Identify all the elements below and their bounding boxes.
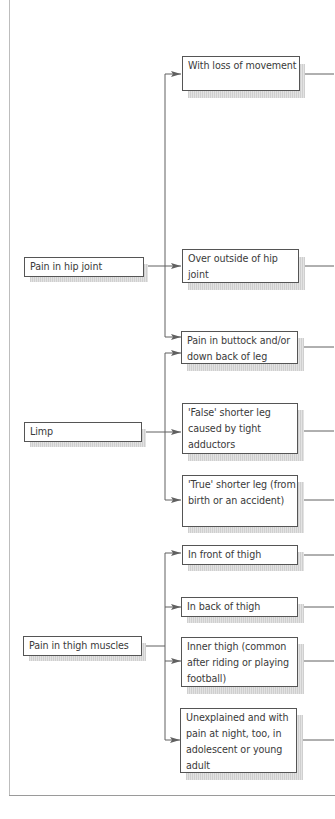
target-inner-thigh: Inner thigh (common after riding or play…: [181, 637, 298, 687]
target-loss-of-movement: With loss of movement: [182, 56, 300, 91]
source-thigh-muscles: Pain in thigh muscles: [23, 636, 142, 656]
target-buttock-back-leg: Pain in buttock and/or down back of leg: [181, 331, 298, 364]
source-limp: Limp: [24, 422, 142, 442]
target-outside-hip: Over outside of hip joint: [182, 249, 299, 283]
target-back-thigh: In back of thigh: [181, 597, 298, 617]
target-true-shorter-leg: 'True' shorter leg (from birth or an acc…: [182, 475, 298, 527]
target-front-thigh: In front of thigh: [182, 545, 298, 565]
target-unexplained-night-pain: Unexplained and with pain at night, too,…: [180, 708, 297, 773]
source-hip-joint: Pain in hip joint: [24, 257, 144, 277]
target-false-shorter-leg: 'False' shorter leg caused by tight addu…: [182, 403, 298, 454]
